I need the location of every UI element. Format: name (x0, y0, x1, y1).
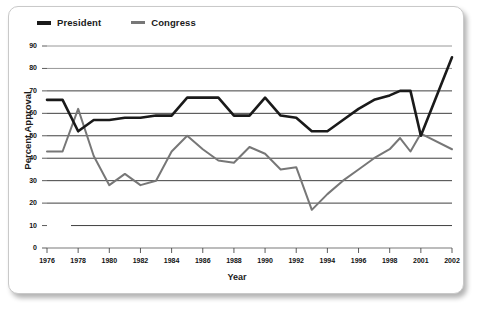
y-axis-tick-label: 80 (15, 64, 37, 71)
y-axis-tick-label: 20 (15, 199, 37, 206)
y-axis-tick-label: 60 (15, 109, 37, 116)
chart-card: President Congress Percent Approval Year… (8, 6, 464, 294)
x-axis-tick-label: 2002 (432, 257, 472, 264)
chart-plot (9, 7, 465, 295)
series-line-congress (47, 109, 452, 210)
y-axis-tick-label: 40 (15, 154, 37, 161)
y-axis-tick-label: 90 (15, 42, 37, 49)
series-line-president (47, 57, 452, 136)
y-axis-tick-label: 30 (15, 177, 37, 184)
y-axis-tick-label: 50 (15, 132, 37, 139)
y-axis-tick-label: 10 (15, 222, 37, 229)
y-axis-tick-label: 70 (15, 87, 37, 94)
y-axis-tick-label: 0 (15, 244, 37, 251)
